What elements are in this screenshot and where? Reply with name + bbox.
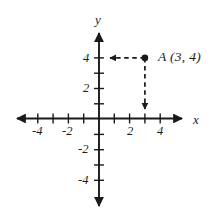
- x-tick-label-4: 4: [157, 125, 163, 138]
- y-tick-label--2: -2: [78, 143, 89, 156]
- coordinate-plane-svg: [0, 0, 217, 219]
- coordinate-plane-figure: -4 -2 2 4 4 2 -2 -4 x y A (3, 4): [0, 0, 217, 219]
- point-marker-a[interactable]: [142, 55, 149, 62]
- y-tick-label-2: 2: [83, 82, 89, 95]
- y-axis: [94, 33, 104, 206]
- x-tick-label-2: 2: [127, 125, 133, 138]
- x-axis-label: x: [193, 113, 199, 126]
- projection-lines: [110, 58, 145, 109]
- point-label-a: A (3, 4): [158, 50, 201, 64]
- y-axis-label: y: [95, 13, 101, 26]
- y-tick-label-4: 4: [83, 52, 89, 65]
- y-tick-label--4: -4: [78, 174, 89, 187]
- x-tick-label--2: -2: [62, 125, 73, 138]
- x-tick-label--4: -4: [32, 125, 43, 138]
